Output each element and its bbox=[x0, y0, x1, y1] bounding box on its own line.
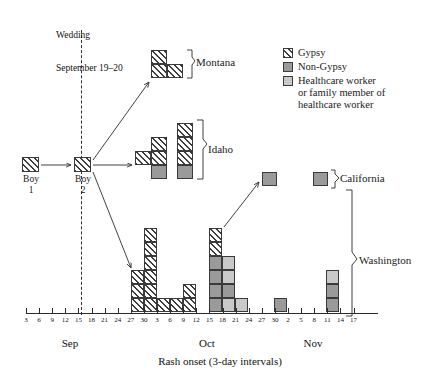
idaho-cell-gypsy bbox=[177, 151, 193, 165]
boy1-label: Boy 1 bbox=[14, 174, 48, 195]
idaho-cell-gypsy bbox=[177, 137, 193, 151]
wa-cell-gypsy bbox=[131, 298, 144, 312]
x-axis-month-nov: Nov bbox=[283, 337, 343, 349]
wa-cell-gypsy bbox=[144, 284, 157, 298]
legend-label-hcw-line3: healthcare worker bbox=[298, 99, 374, 110]
arrow-washington-to-california bbox=[224, 182, 259, 227]
idaho-cell-nongypsy bbox=[151, 165, 167, 179]
bracket-idaho bbox=[197, 120, 207, 179]
group-label-california: California bbox=[340, 172, 385, 184]
wa-cell-nongypsy bbox=[209, 256, 222, 270]
x-axis-tick bbox=[209, 308, 210, 313]
idaho-cell-nongypsy bbox=[177, 165, 193, 179]
montana-cell-gypsy bbox=[151, 50, 167, 64]
boy2-label-line1: Boy bbox=[66, 174, 100, 185]
wa-cell-gypsy bbox=[144, 228, 157, 242]
x-axis-tick bbox=[275, 308, 276, 313]
wa-cell-hcw bbox=[222, 298, 235, 312]
boy2-label-line2: 2 bbox=[66, 185, 100, 196]
boy2-case-cell bbox=[74, 157, 91, 172]
boy2-label: Boy 2 bbox=[66, 174, 100, 195]
legend-swatch-hcw-icon bbox=[283, 76, 293, 86]
legend-label-hcw-block: Healthcare worker or family member of he… bbox=[298, 75, 385, 111]
wa-cell-hcw bbox=[326, 270, 339, 284]
x-axis-tick bbox=[183, 308, 184, 313]
x-axis-month-sep: Sep bbox=[40, 337, 100, 349]
wa-cell-nongypsy bbox=[209, 270, 222, 284]
wa-cell-gypsy bbox=[209, 228, 222, 242]
boy1-label-line1: Boy bbox=[14, 174, 48, 185]
wa-cell-gypsy bbox=[144, 298, 157, 312]
legend-swatch-gypsy-icon bbox=[283, 48, 293, 58]
idaho-cell-gypsy bbox=[177, 123, 193, 137]
wa-cell-gypsy bbox=[131, 270, 144, 284]
wa-cell-nongypsy bbox=[274, 298, 287, 312]
wa-cell-gypsy bbox=[209, 242, 222, 256]
wa-cell-gypsy bbox=[144, 270, 157, 284]
x-axis-tick bbox=[354, 308, 355, 313]
wa-cell-nongypsy bbox=[326, 284, 339, 298]
legend-item-nongypsy: Non-Gypsy bbox=[283, 61, 385, 73]
wedding-annotation: Wedding September 19–20 bbox=[56, 8, 123, 96]
bracket-washington bbox=[346, 190, 357, 316]
x-axis-tick bbox=[301, 308, 302, 313]
idaho-cell-gypsy bbox=[135, 151, 151, 165]
epi-curve-figure: Wedding September 19–20 Boy 1 Boy 2 Mont… bbox=[0, 0, 440, 377]
wa-cell-gypsy bbox=[144, 242, 157, 256]
wa-cell-nongypsy bbox=[209, 298, 222, 312]
california-cell-nongypsy-bracketed bbox=[313, 172, 328, 186]
x-axis-tick bbox=[223, 308, 224, 313]
wa-cell-gypsy bbox=[183, 298, 196, 312]
montana-cell-gypsy bbox=[151, 64, 167, 78]
x-axis-tick bbox=[39, 308, 40, 313]
wa-cell-gypsy bbox=[144, 256, 157, 270]
x-axis-line bbox=[26, 313, 378, 314]
legend-item-gypsy: Gypsy bbox=[283, 47, 385, 59]
wa-cell-nongypsy bbox=[209, 284, 222, 298]
wa-cell-gypsy bbox=[170, 298, 183, 312]
wedding-annotation-line1: Wedding bbox=[56, 30, 123, 41]
x-axis-tick bbox=[340, 308, 341, 313]
x-axis-tick bbox=[170, 308, 171, 313]
bracket-california bbox=[331, 170, 339, 188]
legend-label-hcw-line2: or family member of bbox=[298, 87, 385, 98]
x-axis-tick bbox=[262, 308, 263, 313]
legend-label-gypsy: Gypsy bbox=[298, 47, 325, 59]
x-axis-tick bbox=[131, 308, 132, 313]
montana-cell-gypsy bbox=[167, 64, 183, 78]
wa-cell-gypsy bbox=[157, 298, 170, 312]
x-axis-tick bbox=[314, 308, 315, 313]
x-axis-tick bbox=[196, 308, 197, 313]
legend-label-hcw-line1: Healthcare worker bbox=[298, 75, 376, 86]
legend-label-nongypsy: Non-Gypsy bbox=[298, 61, 347, 73]
x-axis-tick bbox=[92, 308, 93, 313]
wedding-annotation-line2: September 19–20 bbox=[56, 63, 123, 74]
x-axis-tick bbox=[144, 308, 145, 313]
group-label-montana: Montana bbox=[196, 56, 235, 68]
x-axis-tick bbox=[249, 308, 250, 313]
group-label-idaho: Idaho bbox=[208, 143, 233, 155]
boy1-label-line2: 1 bbox=[14, 185, 48, 196]
x-axis-tick bbox=[65, 308, 66, 313]
boy1-case-cell bbox=[22, 157, 39, 172]
idaho-cell-gypsy bbox=[151, 137, 167, 151]
x-axis-tick bbox=[118, 308, 119, 313]
legend: Gypsy Non-Gypsy Healthcare worker or fam… bbox=[283, 47, 385, 113]
idaho-cell-gypsy bbox=[151, 151, 167, 165]
x-axis-tick bbox=[157, 308, 158, 313]
bracket-montana bbox=[187, 50, 195, 78]
wa-cell-gypsy bbox=[131, 284, 144, 298]
x-axis-title: Rash onset (3-day intervals) bbox=[0, 355, 440, 367]
legend-item-hcw: Healthcare worker or family member of he… bbox=[283, 75, 385, 111]
legend-swatch-nongypsy-icon bbox=[283, 62, 293, 72]
x-axis-tick bbox=[26, 308, 27, 313]
group-label-washington: Washington bbox=[359, 254, 411, 266]
x-axis-tick bbox=[78, 308, 79, 313]
wa-cell-hcw bbox=[235, 298, 248, 312]
x-axis-tick bbox=[288, 308, 289, 313]
x-axis-tick bbox=[105, 308, 106, 313]
x-axis-month-oct: Oct bbox=[177, 337, 237, 349]
x-axis-tick-label: 17 bbox=[346, 316, 362, 324]
wa-cell-gypsy bbox=[183, 284, 196, 298]
x-axis-tick bbox=[327, 308, 328, 313]
